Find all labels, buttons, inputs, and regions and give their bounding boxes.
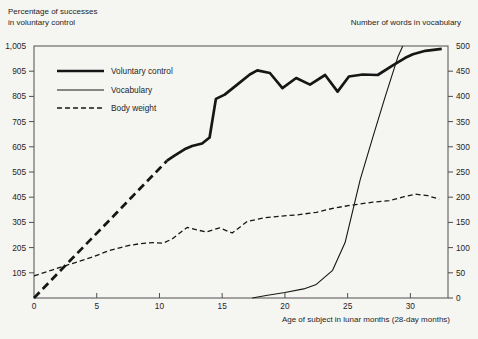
x-axis-title: Age of subject in lunar months (28-day m… — [282, 314, 450, 325]
legend-line-sample — [57, 68, 104, 74]
left-tick-label: 505 — [12, 167, 26, 177]
left-tick-label: 105 — [12, 268, 26, 278]
left-tick-label: 205 — [12, 243, 26, 253]
right-tick-label: 150 — [456, 217, 470, 227]
x-tick-label: 30 — [406, 301, 416, 311]
legend-item-body-weight: Body weight — [57, 99, 173, 118]
x-tick-label: 5 — [94, 301, 99, 311]
legend-item-vocabulary: Vocabulary — [57, 81, 173, 100]
legend-label: Voluntary control — [111, 66, 173, 76]
x-tick-label: 15 — [218, 301, 228, 311]
x-tick-label: 10 — [155, 301, 165, 311]
right-tick-label: 100 — [456, 243, 470, 253]
legend: Voluntary control Vocabulary Body weight — [57, 62, 173, 118]
x-tick-label: 20 — [280, 301, 290, 311]
left-tick-label: 805 — [12, 91, 26, 101]
right-tick-label: 250 — [456, 167, 470, 177]
plot-area: 0510152025301,00590580570560550540530520… — [0, 0, 478, 339]
legend-label: Vocabulary — [111, 85, 152, 95]
series-voluntary-control — [34, 161, 167, 298]
series-voluntary-control — [167, 49, 442, 161]
right-tick-label: 300 — [456, 142, 470, 152]
left-tick-label: 1,005 — [5, 41, 26, 51]
right-tick-label: 200 — [456, 192, 470, 202]
right-tick-label: 500 — [456, 41, 470, 51]
legend-item-voluntary-control: Voluntary control — [57, 62, 173, 81]
x-tick-label: 0 — [32, 301, 37, 311]
left-tick-label: 605 — [12, 142, 26, 152]
x-tick-label: 25 — [343, 301, 353, 311]
legend-line-sample — [57, 87, 104, 93]
left-tick-label: 405 — [12, 192, 26, 202]
right-tick-label: 50 — [456, 268, 466, 278]
right-tick-label: 0 — [456, 293, 461, 303]
legend-line-sample — [57, 105, 104, 111]
left-tick-label: 905 — [12, 66, 26, 76]
left-tick-label: 705 — [12, 117, 26, 127]
chart-figure: Percentage of successes in voluntary con… — [0, 0, 478, 339]
series-vocabulary — [252, 46, 402, 298]
right-tick-label: 350 — [456, 117, 470, 127]
right-tick-label: 400 — [456, 91, 470, 101]
left-tick-label: 305 — [12, 217, 26, 227]
right-tick-label: 450 — [456, 66, 470, 76]
legend-label: Body weight — [111, 103, 156, 113]
